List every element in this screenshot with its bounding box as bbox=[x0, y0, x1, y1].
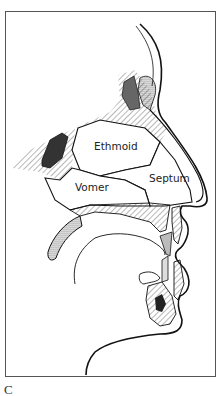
label-ethmoid: Ethmoid bbox=[94, 140, 138, 152]
upper-incisor bbox=[160, 232, 172, 256]
panel-letter: C bbox=[4, 382, 13, 396]
hard-palate bbox=[70, 203, 170, 232]
label-vomer: Vomer bbox=[75, 181, 109, 193]
upper-lip bbox=[172, 206, 182, 244]
floor-of-mouth bbox=[139, 272, 160, 284]
soft-palate bbox=[48, 216, 82, 260]
label-septum: Septum bbox=[149, 172, 190, 184]
nasal-anatomy-illustration bbox=[0, 0, 221, 396]
lower-incisor bbox=[162, 256, 168, 282]
